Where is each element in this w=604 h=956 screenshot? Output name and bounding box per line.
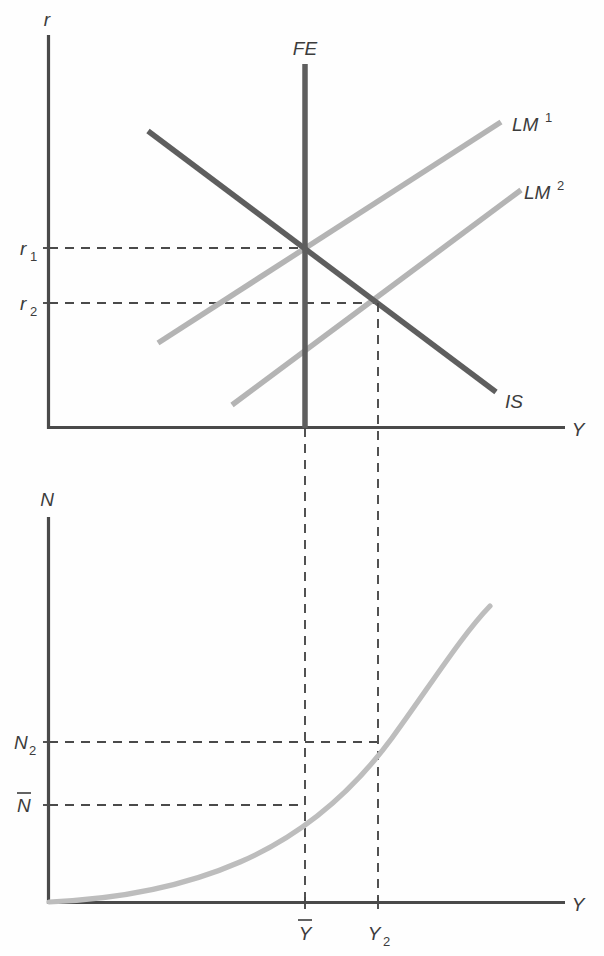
bottom-y-tick-nbar-label: N (17, 795, 31, 816)
curve-label-lm2-superscript: 2 (557, 178, 564, 193)
bottom-x-tick-y2: Y 2 (368, 923, 391, 949)
bottom-x-tick-y2-label: Y (368, 923, 382, 944)
top-x-axis-label: Y (572, 419, 586, 440)
top-y-axis-label: r (44, 9, 51, 30)
curve-label-is: IS (505, 391, 523, 412)
curve-label-lm1-text: LM (512, 114, 539, 135)
curve-lm2 (232, 190, 521, 405)
bottom-y-tick-n2-label: N (14, 732, 28, 753)
figure-root: r Y r 1 r 2 (0, 0, 604, 956)
curve-label-lm1: LM 1 (512, 110, 552, 135)
economics-diagram: r Y r 1 r 2 (0, 0, 604, 956)
top-y-tick-r1-label: r (20, 238, 27, 259)
top-panel: r Y r 1 r 2 (20, 9, 586, 440)
top-y-tick-r2: r 2 (20, 293, 37, 319)
linking-lines (305, 303, 378, 903)
top-y-tick-r1-subscript: 1 (30, 249, 37, 264)
bottom-x-tick-ybar: Y (298, 920, 313, 944)
bottom-panel: N Y N 2 N Y (14, 489, 586, 949)
bottom-y-axis-label: N (40, 489, 54, 510)
curve-label-fe: FE (293, 38, 318, 59)
top-y-tick-r1: r 1 (20, 238, 37, 264)
curve-is (148, 131, 496, 392)
bottom-x-axis-label: Y (572, 894, 586, 915)
bottom-y-tick-nbar: N (17, 793, 31, 816)
bottom-x-tick-y2-subscript: 2 (383, 934, 390, 949)
bottom-x-tick-ybar-label: Y (299, 923, 313, 944)
curve-production-function (49, 606, 490, 902)
bottom-y-tick-n2-subscript: 2 (29, 743, 36, 758)
curve-label-lm1-superscript: 1 (545, 110, 552, 125)
top-y-tick-r2-subscript: 2 (30, 304, 37, 319)
top-y-tick-r2-label: r (20, 293, 27, 314)
curve-lm1 (158, 122, 501, 343)
bottom-y-tick-n2: N 2 (14, 732, 36, 758)
curve-label-lm2: LM 2 (524, 178, 564, 203)
curve-label-lm2-text: LM (524, 182, 551, 203)
